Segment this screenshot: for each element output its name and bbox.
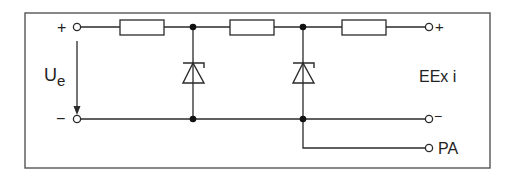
voltage-arrow bbox=[74, 41, 81, 115]
resistor-r3 bbox=[342, 20, 386, 35]
label-voltage: Ue bbox=[44, 65, 65, 89]
enclosure-frame bbox=[25, 13, 490, 168]
label-in-minus: − bbox=[56, 110, 65, 127]
resistor-r2 bbox=[230, 20, 274, 35]
circuit-diagram: + − Ue + − PA EEx i bbox=[0, 0, 513, 174]
terminal-out-plus bbox=[425, 23, 432, 30]
label-out-plus: + bbox=[435, 18, 444, 35]
terminal-pa bbox=[425, 144, 432, 151]
junction-dot bbox=[300, 24, 307, 31]
wire-pa bbox=[303, 119, 425, 148]
terminal-in-minus bbox=[73, 115, 80, 122]
junction-dot bbox=[190, 116, 197, 123]
label-zone: EEx i bbox=[419, 68, 456, 85]
zener-diode-d2 bbox=[293, 27, 314, 119]
label-out-minus: − bbox=[434, 108, 442, 124]
label-pa: PA bbox=[438, 140, 458, 157]
zener-diode-d1 bbox=[183, 27, 204, 119]
junction-dot bbox=[190, 24, 197, 31]
junction-dot bbox=[300, 116, 307, 123]
label-in-plus: + bbox=[57, 19, 66, 36]
terminal-out-minus bbox=[425, 115, 432, 122]
resistor-r1 bbox=[120, 20, 164, 35]
terminal-in-plus bbox=[73, 23, 80, 30]
